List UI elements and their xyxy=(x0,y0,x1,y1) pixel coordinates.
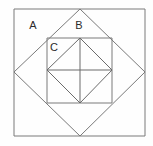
label-c: C xyxy=(50,41,58,53)
nested-squares-diagram: A B C xyxy=(0,0,153,146)
label-a: A xyxy=(29,19,37,31)
label-b: B xyxy=(75,19,82,31)
geometric-figure-container: A B C xyxy=(0,0,153,146)
